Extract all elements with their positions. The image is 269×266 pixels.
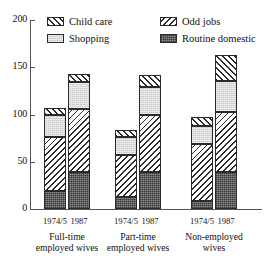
bar-segment xyxy=(215,112,237,172)
bar-segment xyxy=(44,115,66,137)
bar-segment xyxy=(191,144,213,201)
bar-segment xyxy=(191,201,213,210)
x-group-label: Non-employedwives xyxy=(171,231,257,253)
bar-segment xyxy=(68,74,90,83)
stacked-bar-chart: 050100150200 Child careShoppingOdd jobsR… xyxy=(0,0,269,266)
bar-segment xyxy=(68,82,90,108)
bar-segment xyxy=(68,172,90,209)
y-axis-tick-label: 200 xyxy=(13,14,27,24)
bar-segment xyxy=(139,172,161,209)
x-group-label-line1: Part-time xyxy=(95,231,181,242)
bar-segment xyxy=(139,75,161,87)
bar-segment xyxy=(44,108,66,116)
x-axis-line xyxy=(30,209,262,210)
x-axis-labels: 1974/51987Full-timeemployed wives1974/51… xyxy=(0,211,269,266)
x-tick-label: 1987 xyxy=(131,216,169,226)
bar-segment xyxy=(115,155,137,197)
y-axis-tick xyxy=(30,209,35,210)
x-group-label-line1: Non-employed xyxy=(171,231,257,242)
x-group-label-line2: employed wives xyxy=(95,242,181,253)
bar-segment xyxy=(215,81,237,111)
bar-segment xyxy=(139,87,161,115)
bar-segment xyxy=(139,115,161,172)
x-group-label-line2: wives xyxy=(171,242,257,253)
bar-segment xyxy=(115,197,137,209)
bar-segment xyxy=(191,126,213,144)
bar-segment xyxy=(191,117,213,126)
plot-area xyxy=(30,20,262,209)
x-group-label: Part-timeemployed wives xyxy=(95,231,181,253)
y-axis-tick-label: 100 xyxy=(13,109,27,119)
bar-segment xyxy=(44,137,66,191)
x-tick-label: 1987 xyxy=(60,216,98,226)
bar-segment xyxy=(68,109,90,172)
x-tick-label: 1987 xyxy=(207,216,245,226)
bar-segment xyxy=(115,130,137,138)
bar-segment xyxy=(215,55,237,81)
y-axis-tick-label: 50 xyxy=(17,156,27,166)
bar-segment xyxy=(44,191,66,209)
bar-segment xyxy=(215,172,237,209)
bar-segment xyxy=(115,137,137,155)
y-axis-tick-label: 150 xyxy=(13,61,27,71)
